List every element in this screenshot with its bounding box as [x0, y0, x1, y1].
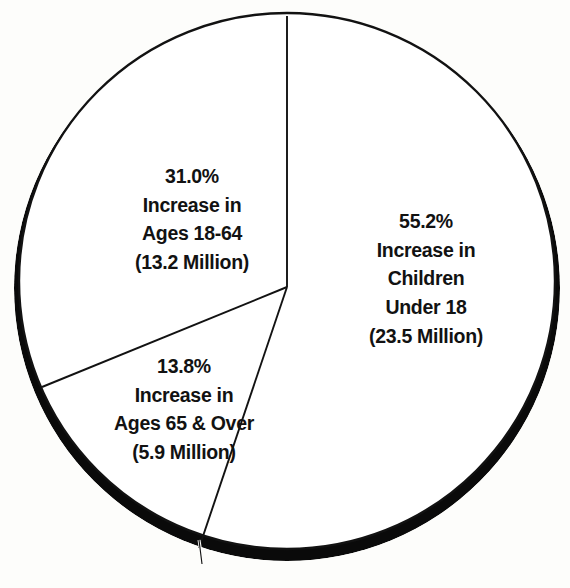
slice-line1-ages-65-over: Increase in — [62, 381, 306, 410]
slice-line1-children: Increase in — [336, 236, 516, 265]
slice-line3-children: Under 18 — [336, 293, 516, 322]
slice-percent-children: 55.2% — [336, 207, 516, 236]
slice-percent-ages-18-64: 31.0% — [80, 162, 304, 191]
slice-label-children-under-18: 55.2% Increase in Children Under 18 (23.… — [336, 207, 516, 350]
slice-amount-ages-18-64: (13.2 Million) — [80, 248, 304, 277]
slice-line2-children: Children — [336, 264, 516, 293]
slice-line1-ages-18-64: Increase in — [80, 191, 304, 220]
slice-amount-ages-65-over: (5.9 Million) — [62, 438, 306, 467]
pie-chart-figure: 55.2% Increase in Children Under 18 (23.… — [0, 0, 570, 588]
slice-line2-ages-65-over: Ages 65 & Over — [62, 409, 306, 438]
slice-label-ages-18-64: 31.0% Increase in Ages 18-64 (13.2 Milli… — [80, 162, 304, 277]
slice-label-ages-65-and-over: 13.8% Increase in Ages 65 & Over (5.9 Mi… — [62, 352, 306, 467]
slice-percent-ages-65-over: 13.8% — [62, 352, 306, 381]
slice-amount-children: (23.5 Million) — [336, 322, 516, 351]
slice-line2-ages-18-64: Ages 18-64 — [80, 219, 304, 248]
